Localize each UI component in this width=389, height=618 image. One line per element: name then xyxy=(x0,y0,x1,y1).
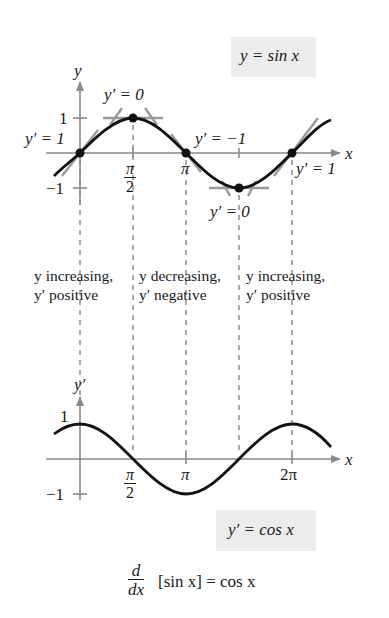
region-3: y increasing, y′ positive xyxy=(246,266,325,304)
top-y-axis-label: y xyxy=(74,62,82,79)
top-function-label: y = sin x xyxy=(240,47,299,64)
region-3-line1: y increasing, xyxy=(246,266,325,285)
bottom-x-tick-pi: π xyxy=(181,466,190,483)
region-1-line2: y′ positive xyxy=(34,285,113,304)
formula-body: [sin x] = cos x xyxy=(158,573,255,590)
bottom-x-axis-label: x xyxy=(345,451,353,468)
bottom-x-tick-2pi: 2π xyxy=(280,466,297,483)
annotation-slope-0: y′ = 1 xyxy=(25,130,65,147)
tick-denominator: 2 xyxy=(124,178,136,195)
annotation-slope-pi: y′ = −1 xyxy=(195,130,246,147)
tick-numerator: π xyxy=(124,161,136,178)
annotation-slope-3pi-over-2: y′ = 0 xyxy=(210,203,250,220)
top-x-tick-pi: π xyxy=(181,160,190,177)
graphs-canvas xyxy=(0,0,389,618)
tick-denominator: 2 xyxy=(124,484,136,501)
region-1: y increasing, y′ positive xyxy=(34,266,113,304)
top-y-tick-neg1: −1 xyxy=(46,180,64,197)
region-1-line1: y increasing, xyxy=(34,266,113,285)
bottom-function-label: y′ = cos x xyxy=(228,521,294,538)
region-2-line1: y decreasing, xyxy=(139,266,221,285)
formula-numerator: d xyxy=(128,562,144,580)
formula-derivative-operator: d dx xyxy=(128,562,144,598)
bottom-y-tick-neg1: −1 xyxy=(46,486,64,503)
top-x-axis-label: x xyxy=(345,145,353,162)
annotation-slope-pi-over-2: y′ = 0 xyxy=(104,86,144,103)
bottom-axes xyxy=(46,397,340,500)
tick-numerator: π xyxy=(124,467,136,484)
annotation-slope-2pi: y′ = 1 xyxy=(296,160,336,177)
top-y-tick-1: 1 xyxy=(59,110,68,127)
region-3-line2: y′ positive xyxy=(246,285,325,304)
bottom-y-axis-label: y′ xyxy=(74,376,85,393)
formula-denominator: dx xyxy=(128,580,144,598)
top-x-tick-pi-over-2: π 2 xyxy=(124,161,136,195)
bottom-x-tick-pi-over-2: π 2 xyxy=(124,467,136,501)
region-2-line2: y′ negative xyxy=(139,285,221,304)
region-2: y decreasing, y′ negative xyxy=(139,266,221,304)
bottom-y-tick-1: 1 xyxy=(60,408,69,425)
